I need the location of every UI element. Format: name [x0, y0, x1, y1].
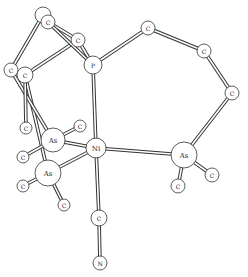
- bond-ni-c_cn: [96, 148, 99, 218]
- atom-label: C: [62, 202, 67, 209]
- atom-n: N: [93, 256, 107, 270]
- atom-label: C: [9, 67, 14, 74]
- atom-label: Ni: [92, 145, 101, 153]
- atom-label: C: [21, 154, 26, 161]
- atom-label: C: [24, 125, 29, 132]
- atom-label: As: [43, 170, 53, 178]
- atom-p: P: [84, 56, 102, 74]
- atom-label: C: [210, 172, 215, 179]
- atom-c_as3_bottom: C: [171, 179, 185, 193]
- atom-label: C: [46, 19, 51, 26]
- atom-label: As: [179, 152, 189, 160]
- atom-c_upper: C: [71, 33, 85, 47]
- atom-label: C: [23, 72, 28, 79]
- atom-label: N: [97, 260, 102, 267]
- atom-c_top: C: [41, 15, 55, 29]
- atom-c_cn: C: [91, 210, 107, 226]
- atom-c_as3_right: C: [205, 168, 219, 182]
- bond-c_ring2-c_ring3: [204, 51, 232, 93]
- atom-label: As: [48, 137, 58, 145]
- atom-label: C: [176, 183, 181, 190]
- bond-c_top_back-c_left1: [11, 15, 43, 70]
- atom-label: C: [230, 90, 235, 97]
- atom-c_as2_left: C: [17, 180, 29, 192]
- atom-c_as1_right: C: [74, 120, 86, 132]
- atom-label: P: [91, 62, 95, 69]
- atom-ni: Ni: [86, 138, 106, 158]
- bond-p-c_ring1: [93, 28, 148, 65]
- atom-label: C: [21, 183, 26, 190]
- atom-c_ring3: C: [225, 86, 239, 100]
- atom-label: C: [202, 48, 207, 55]
- atom-c_as2_bottom: C: [58, 199, 70, 211]
- atom-label: C: [76, 37, 81, 44]
- atom-c_as1_left: C: [17, 151, 29, 163]
- atom-c_left2: C: [17, 67, 33, 83]
- atom-c_ring1: C: [141, 21, 155, 35]
- atom-label: C: [78, 123, 83, 130]
- bond-p-ni: [93, 65, 96, 148]
- atom-label: C: [97, 215, 102, 222]
- atom-c_ring2: C: [197, 44, 211, 58]
- atom-c_left1: C: [4, 63, 18, 77]
- atom-as3: As: [171, 142, 197, 168]
- atom-as1: As: [41, 128, 65, 152]
- atom-c_as1_top: C: [20, 122, 32, 134]
- atom-as2: As: [35, 160, 61, 186]
- atom-label: C: [146, 25, 151, 32]
- molecule-diagram: CCPCCCCCCCAsNiCAsCCAsCCCN: [0, 0, 248, 277]
- bond-c_ring1-c_ring2: [148, 28, 204, 51]
